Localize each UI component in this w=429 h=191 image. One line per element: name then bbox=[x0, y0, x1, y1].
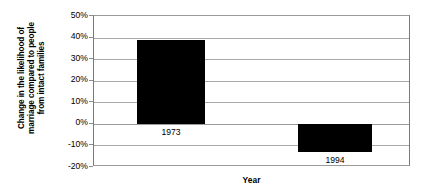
x-axis-title: Year bbox=[93, 175, 410, 185]
y-axis-title-line-1: Change in the likelihood of bbox=[17, 27, 27, 129]
gridline-40 bbox=[94, 38, 409, 39]
bar-1994 bbox=[298, 124, 372, 152]
y-tick-mark bbox=[89, 101, 93, 102]
y-axis-title-line-3: from intact families bbox=[37, 41, 47, 114]
y-tick-mark bbox=[89, 123, 93, 124]
bar-chart-figure: Change in the likelihood of marriage com… bbox=[0, 0, 429, 191]
y-tick-label: -20% bbox=[55, 162, 88, 171]
y-tick-label: 40% bbox=[55, 32, 88, 41]
plot-area: 19731994 bbox=[93, 15, 410, 166]
data-label-1994: 1994 bbox=[298, 155, 372, 165]
y-tick-label: 20% bbox=[55, 75, 88, 84]
y-tick-mark bbox=[89, 80, 93, 81]
y-tick-label: 0% bbox=[55, 118, 88, 127]
bar-1973 bbox=[137, 40, 205, 124]
y-tick-mark bbox=[89, 58, 93, 59]
y-axis-title-line-2: marriage compared to people bbox=[27, 22, 37, 134]
y-tick-label: -10% bbox=[55, 140, 88, 149]
y-tick-label: 10% bbox=[55, 97, 88, 106]
data-label-1973: 1973 bbox=[137, 127, 205, 137]
y-axis-tick-labels: 50%40%30%20%10%0%-10%-20% bbox=[55, 10, 88, 170]
y-tick-mark bbox=[89, 144, 93, 145]
y-tick-mark bbox=[89, 37, 93, 38]
y-tick-label: 30% bbox=[55, 54, 88, 63]
y-tick-mark bbox=[89, 166, 93, 167]
y-axis-title: Change in the likelihood of marriage com… bbox=[10, 0, 54, 158]
y-tick-label: 50% bbox=[55, 11, 88, 20]
y-tick-mark bbox=[89, 15, 93, 16]
